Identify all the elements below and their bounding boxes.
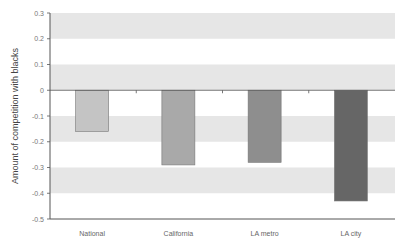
category-label: California	[164, 230, 194, 237]
y-tick-label: 0.2	[34, 35, 44, 42]
bar-la-metro	[248, 90, 281, 162]
y-tick-label: -0.4	[32, 190, 44, 197]
category-label: LA city	[341, 230, 362, 238]
y-tick-label: 0	[40, 87, 44, 94]
bar-chart: 0.30.20.10-0.1-0.2-0.3-0.4-0.5 NationalC…	[0, 0, 405, 247]
grid-band	[50, 65, 395, 91]
y-tick-label: -0.2	[32, 138, 44, 145]
grid-band	[50, 13, 395, 39]
y-tick-label: 0.1	[34, 61, 44, 68]
y-tick-label: -0.1	[32, 113, 44, 120]
category-label: National	[79, 230, 105, 237]
bar-la-city	[334, 90, 367, 201]
bar-national	[76, 90, 109, 131]
y-tick-labels: 0.30.20.10-0.1-0.2-0.3-0.4-0.5	[32, 10, 44, 223]
y-tick-label: -0.5	[32, 216, 44, 223]
bar-california	[162, 90, 195, 165]
y-tick-label: 0.3	[34, 10, 44, 17]
y-axis-label: Amount of competition with blacks	[10, 47, 20, 184]
category-label: LA metro	[251, 230, 279, 237]
x-category-labels: NationalCaliforniaLA metroLA city	[79, 230, 361, 238]
y-tick-label: -0.3	[32, 164, 44, 171]
